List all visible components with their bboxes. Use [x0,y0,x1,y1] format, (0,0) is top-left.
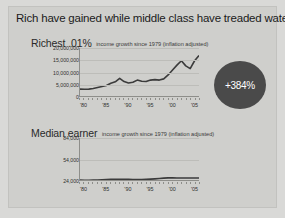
x-tick-label: '85 [102,102,109,108]
x-tick-label: '95 [147,186,154,192]
x-tick-label: '80 [80,102,87,108]
x-tick-mark [163,182,164,184]
x-tick-mark [199,98,200,100]
gridline [80,85,199,86]
x-tick-label: '95 [147,102,154,108]
x-tick-mark [159,182,160,184]
x-tick-mark [101,182,102,184]
x-tick-mark [199,182,200,184]
x-tick-mark [186,182,187,184]
x-tick-mark [141,182,142,184]
x-tick-mark [177,98,178,100]
badge-richest-growth: +384% [214,61,266,109]
x-tick-label: '00 [169,102,176,108]
x-tick-mark [83,182,84,184]
gridline [80,73,199,74]
gridline [80,60,199,61]
x-tick-mark [123,182,124,184]
x-tick-label: '90 [124,186,131,192]
x-tick-mark [123,98,124,100]
x-tick-label: '85 [102,186,109,192]
x-tick-mark [168,98,169,100]
x-tick-mark [137,98,138,100]
x-tick-mark [181,182,182,184]
x-tick-mark [186,98,187,100]
x-tick-mark [181,98,182,100]
chart-richest-y-axis-labels: 05,000,00010,000,00015,000,00020,000,000 [31,48,79,97]
y-tick-label: 5,000,000 [33,82,79,88]
x-tick-label: '05 [191,102,198,108]
x-tick-mark [132,182,133,184]
x-tick-mark [168,182,169,184]
x-tick-mark [79,182,80,184]
x-tick-mark [195,182,196,184]
slide-panel: Rich have gained while middle class have… [8,6,277,208]
x-tick-mark [92,98,93,100]
chart-median-x-axis-labels: '80'85'90'95'00'05 [79,182,199,192]
y-tick-label: 20,000,000 [33,45,79,51]
x-tick-mark [119,98,120,100]
x-tick-mark [88,182,89,184]
gridline [80,48,199,49]
x-tick-mark [101,98,102,100]
x-tick-mark [119,182,120,184]
x-tick-mark [128,182,129,184]
x-tick-mark [150,182,151,184]
x-tick-mark [92,182,93,184]
x-tick-mark [110,98,111,100]
x-tick-mark [190,182,191,184]
y-tick-label: 84,000 [33,135,79,141]
x-tick-mark [155,98,156,100]
chart-richest-x-axis-labels: '80'85'90'95'00'05 [79,98,199,108]
chart-median-x-axis [80,180,199,181]
gridline [80,160,199,161]
x-tick-mark [146,98,147,100]
x-tick-mark [177,182,178,184]
x-tick-mark [172,98,173,100]
x-tick-mark [163,98,164,100]
x-tick-mark [115,182,116,184]
y-tick-label: 0 [33,94,79,100]
x-tick-mark [146,182,147,184]
x-tick-mark [115,98,116,100]
x-tick-mark [110,182,111,184]
chart-median-plot-area [79,138,199,181]
x-tick-mark [195,98,196,100]
page-title: Rich have gained while middle class have… [16,12,285,24]
gridline [80,138,199,139]
x-tick-mark [155,182,156,184]
y-tick-label: 54,000 [33,157,79,163]
x-tick-mark [79,98,80,100]
x-tick-mark [106,182,107,184]
x-tick-mark [190,98,191,100]
chart-median-y-axis-labels: 24,00054,00084,000 [31,138,79,181]
x-tick-mark [106,98,107,100]
x-tick-label: '80 [80,186,87,192]
x-tick-mark [128,98,129,100]
x-tick-mark [83,98,84,100]
x-tick-mark [172,182,173,184]
chart-median: 24,00054,00084,000 '80'85'90'95'00'05 [31,136,201,192]
slide: Rich have gained while middle class have… [0,0,285,218]
chart-richest-plot-area [79,48,199,97]
chart-richest-x-axis [80,96,199,97]
y-tick-label: 15,000,000 [33,57,79,63]
x-tick-mark [97,98,98,100]
x-tick-mark [141,98,142,100]
x-tick-mark [97,182,98,184]
x-tick-label: '00 [169,186,176,192]
y-tick-label: 24,000 [33,178,79,184]
y-tick-label: 10,000,000 [33,70,79,76]
x-tick-mark [150,98,151,100]
chart-richest: 05,000,00010,000,00015,000,00020,000,000… [31,46,201,108]
x-tick-mark [159,98,160,100]
x-tick-label: '90 [124,102,131,108]
x-tick-label: '05 [191,186,198,192]
x-tick-mark [137,182,138,184]
x-tick-mark [132,98,133,100]
x-tick-mark [88,98,89,100]
